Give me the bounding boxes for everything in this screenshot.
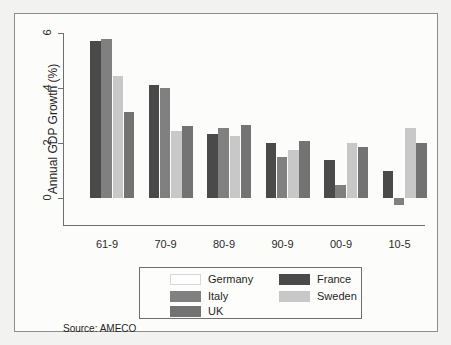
bar [299,141,310,199]
bar [124,112,135,198]
legend-swatch [170,274,201,285]
bar [113,76,124,199]
figure-page: 0246 61-970-980-990-900-910-5 Annual GDP… [0,0,451,345]
bar-group [313,33,369,226]
source-note: Source: AMECO [63,323,136,334]
legend-label: UK [208,305,223,318]
bar [288,150,299,198]
bar-group [79,33,135,226]
legend-swatch [279,291,310,302]
bar [324,160,335,199]
legend-label: Italy [208,290,228,303]
y-axis-tick-label: 6 [42,25,53,41]
bar [160,88,171,198]
bar-group [255,33,311,226]
legend-swatch [170,306,201,317]
bar [149,85,160,198]
bars-layer [63,33,425,226]
bar [358,147,369,198]
bar [171,131,182,199]
bar [207,134,218,199]
y-axis-title: Annual GDP Growth (%) [46,64,60,195]
bar [277,157,288,198]
legend-swatch [279,274,310,285]
bar [266,143,277,198]
bar [394,198,405,205]
bar [101,39,112,198]
bar [335,185,346,199]
legend-label: Germany [208,273,253,286]
figure-frame: 0246 61-970-980-990-900-910-5 Annual GDP… [14,13,438,332]
bar [347,143,358,198]
bar [218,128,229,198]
bar [182,126,193,198]
legend-label: France [317,273,351,286]
bar-group [196,33,252,226]
bar [90,41,101,198]
bar-group [372,33,428,226]
chart-legend: GermanyItalyUKFranceSweden [139,267,362,319]
bar [383,171,394,199]
x-axis-tick-label: 10-5 [358,238,442,250]
bar [241,125,252,198]
bar [405,128,416,198]
bar-group [138,33,194,226]
bar [230,136,241,199]
plot-area: 0246 61-970-980-990-900-910-5 Annual GDP… [63,33,425,226]
bar [416,143,427,198]
legend-label: Sweden [317,290,357,303]
legend-swatch [170,291,201,302]
